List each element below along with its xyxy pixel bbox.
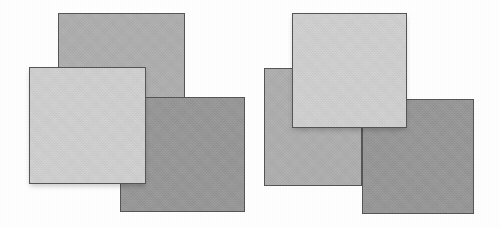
figure-canvas	[0, 0, 500, 228]
left-light-square-texture	[30, 68, 145, 183]
right-light-square	[292, 13, 407, 128]
right-light-square-texture	[293, 14, 406, 127]
left-light-square	[29, 67, 146, 184]
